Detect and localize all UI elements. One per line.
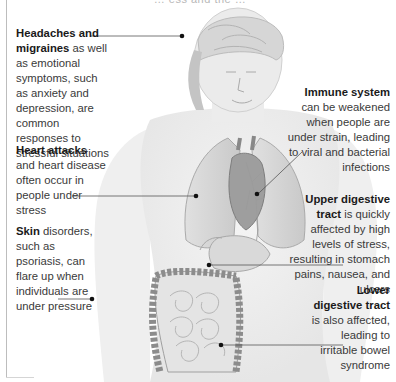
dot-brain [180, 34, 185, 39]
dot-intestine [219, 343, 224, 348]
dot-lymph [255, 192, 260, 197]
annotation-headaches-text: as well as emotional symptoms, such as a… [16, 42, 109, 159]
annotation-heart: Heart attacks and heart disease often oc… [16, 143, 106, 218]
annotation-skin-text: disorders, such as psoriasis, can flare … [16, 225, 93, 312]
annotation-lower-digestive-text: is also affected, leading to irritable b… [312, 314, 390, 371]
intestines-illustration [153, 271, 241, 372]
annotation-immune: Immune system can be weakened when peopl… [284, 85, 390, 175]
head-illustration [188, 8, 283, 112]
stress-body-diagram: … ess and the … [0, 0, 396, 382]
dot-heart [194, 194, 199, 199]
annotation-immune-title: Immune system [305, 86, 390, 98]
annotation-lower-digestive: Lower digestive tract is also affected, … [308, 283, 390, 373]
annotation-skin: Skin disorders, such as psoriasis, can f… [16, 224, 100, 314]
annotation-immune-text: can be weakened when people are under st… [288, 101, 390, 173]
annotation-skin-title: Skin [16, 225, 40, 237]
annotation-upper-digestive-text: is quickly affected by high levels of st… [290, 208, 390, 295]
annotation-lower-digestive-title: Lower digestive tract [313, 284, 390, 311]
annotation-heart-title: Heart attacks [16, 144, 87, 156]
annotation-headaches: Headaches and migraines as well as emoti… [16, 26, 112, 161]
annotation-upper-digestive: Upper digestive tract is quickly affecte… [286, 192, 390, 297]
annotation-heart-text: and heart disease often occur in people … [16, 159, 106, 216]
dot-stomach [207, 263, 212, 268]
